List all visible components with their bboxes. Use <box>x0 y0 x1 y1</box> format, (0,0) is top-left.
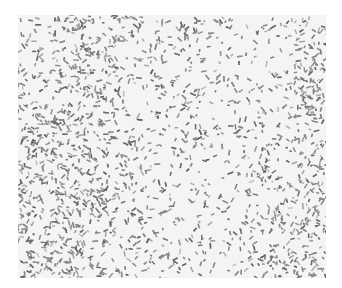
speckle-texture <box>18 15 326 278</box>
micrograph-image <box>18 15 326 278</box>
